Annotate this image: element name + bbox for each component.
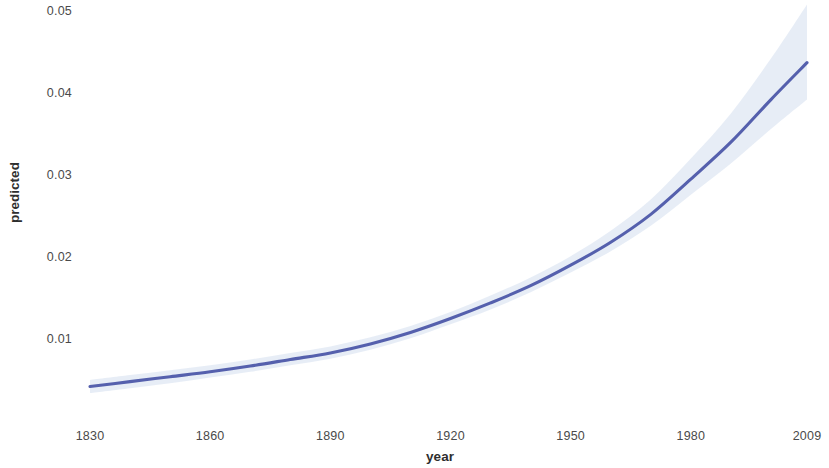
- predicted-line: [90, 63, 807, 387]
- x-axis-title: year: [400, 449, 480, 464]
- x-tick-label: 1980: [651, 429, 731, 443]
- y-tick-label: 0.05: [14, 4, 72, 18]
- x-tick-label: 1950: [531, 429, 611, 443]
- confidence-band-group: [90, 4, 807, 393]
- x-tick-label: 1830: [50, 429, 130, 443]
- chart-plot-area: [0, 0, 829, 468]
- y-tick-label: 0.01: [14, 332, 72, 346]
- confidence-interval-band: [90, 4, 807, 393]
- y-tick-label: 0.02: [14, 250, 72, 264]
- x-tick-label: 1890: [290, 429, 370, 443]
- y-tick-label: 0.03: [14, 168, 72, 182]
- y-tick-label: 0.04: [14, 86, 72, 100]
- series-line-group: [90, 63, 807, 387]
- x-tick-label: 1860: [170, 429, 250, 443]
- y-axis-title: predicted: [7, 148, 22, 238]
- x-tick-label: 2009: [767, 429, 829, 443]
- x-tick-label: 1920: [411, 429, 491, 443]
- prediction-line-chart: 0.010.020.030.040.05 1830186018901920195…: [0, 0, 829, 468]
